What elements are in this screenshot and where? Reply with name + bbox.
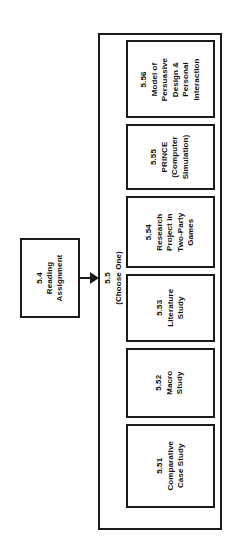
option-node-5-51-textwrap: 5.51 Comparative Case Study <box>128 426 213 506</box>
option-node-5-54[interactable]: 5.54 Research Project in Two-Party Games <box>126 196 215 268</box>
option-5-51-line-2: Case Study <box>176 441 187 491</box>
option-5-53-line-2: Study <box>176 289 187 327</box>
option-node-5-56[interactable]: 5.56 Model of Persuasive Design & Person… <box>126 40 215 118</box>
node-reading-assignment-label: 5.4 Reading Assignment <box>35 255 65 302</box>
option-5-55-line-3: Simulation) <box>181 135 192 180</box>
node-reading-assignment-line-0: 5.4 <box>35 255 45 302</box>
option-node-5-54-label: 5.54 Research Project in Two-Party Games <box>144 213 197 252</box>
option-5-56-line-2: Persuasive <box>160 57 171 100</box>
option-5-53-line-0: 5.53 <box>155 289 166 327</box>
option-5-55-line-0: 5.55 <box>150 135 161 180</box>
option-5-56-line-0: 5.56 <box>139 57 150 100</box>
option-5-54-line-0: 5.54 <box>144 213 155 252</box>
option-node-5-55-label: 5.55 PRINCE (Computer Simulation) <box>150 135 192 180</box>
option-5-55-line-2: (Computer <box>171 135 182 180</box>
option-node-5-53-label: 5.53 Literature Study <box>155 289 187 327</box>
option-5-54-line-3: Two-Party <box>176 213 187 252</box>
option-node-5-52[interactable]: 5.52 Macro Study <box>126 348 215 418</box>
option-5-52-line-1: Macro <box>165 371 176 395</box>
option-5-52-line-2: Study <box>176 371 187 395</box>
node-reading-assignment-line-2: Assignment <box>55 255 65 302</box>
option-node-5-52-label: 5.52 Macro Study <box>155 371 187 395</box>
option-5-51-line-0: 5.51 <box>155 441 166 491</box>
option-5-54-line-1: Research <box>155 213 166 252</box>
diagram-canvas: 5.4 Reading Assignment 5.5 (Choose One) … <box>0 0 236 554</box>
option-5-56-line-5: Interaction <box>191 57 202 100</box>
option-node-5-55-textwrap: 5.55 PRINCE (Computer Simulation) <box>128 126 213 188</box>
option-node-5-53-textwrap: 5.53 Literature Study <box>128 276 213 340</box>
option-5-56-line-1: Model of <box>149 57 160 100</box>
option-5-56-line-3: Design & <box>170 57 181 100</box>
option-5-51-line-1: Comparative <box>165 441 176 491</box>
node-reading-assignment[interactable]: 5.4 Reading Assignment <box>20 238 80 318</box>
option-node-5-55[interactable]: 5.55 PRINCE (Computer Simulation) <box>126 124 215 190</box>
option-5-54-line-4: Games <box>186 213 197 252</box>
option-node-5-51-label: 5.51 Comparative Case Study <box>155 441 187 491</box>
option-node-5-53[interactable]: 5.53 Literature Study <box>126 274 215 342</box>
option-5-52-line-0: 5.52 <box>155 371 166 395</box>
option-node-5-51[interactable]: 5.51 Comparative Case Study <box>126 424 215 508</box>
option-5-53-line-1: Literature <box>165 289 176 327</box>
option-node-5-56-textwrap: 5.56 Model of Persuasive Design & Person… <box>128 42 213 116</box>
option-5-56-line-4: Personal <box>181 57 192 100</box>
option-node-5-54-textwrap: 5.54 Research Project in Two-Party Games <box>128 198 213 266</box>
option-5-55-line-1: PRINCE <box>160 135 171 180</box>
option-5-54-line-2: Project in <box>165 213 176 252</box>
node-reading-assignment-textwrap: 5.4 Reading Assignment <box>22 240 78 316</box>
option-node-5-52-textwrap: 5.52 Macro Study <box>128 350 213 416</box>
option-node-5-56-label: 5.56 Model of Persuasive Design & Person… <box>139 57 202 100</box>
node-reading-assignment-line-1: Reading <box>45 255 55 302</box>
